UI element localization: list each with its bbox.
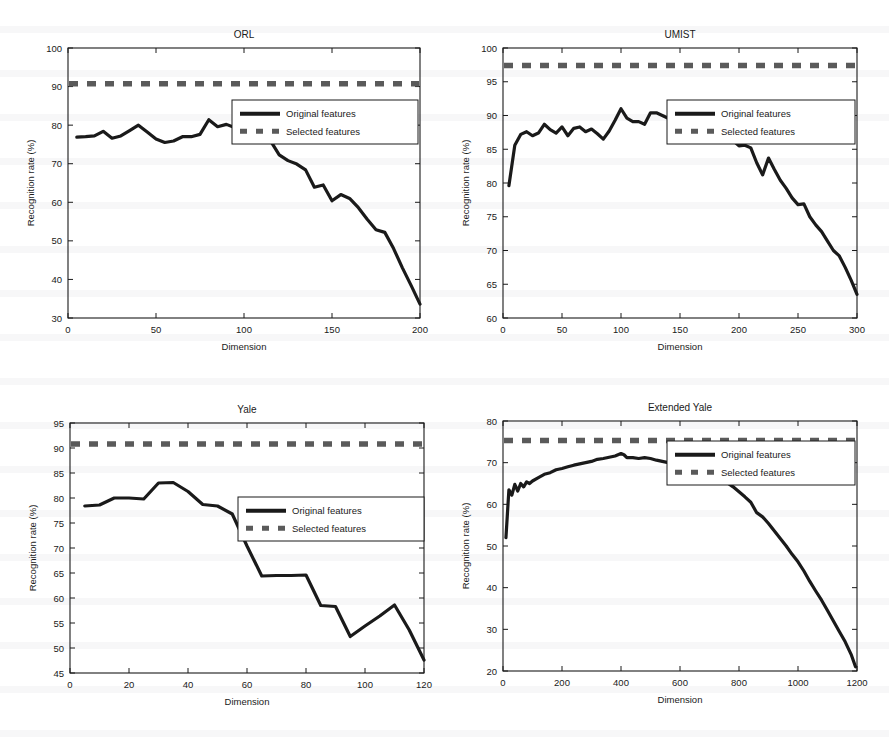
y-tick-label: 75 <box>53 518 64 529</box>
y-tick-label: 90 <box>51 81 62 92</box>
y-tick-label: 60 <box>486 499 497 510</box>
chart-panel-extended-yale: Extended Yale020040060080010001200203040… <box>445 375 889 749</box>
y-tick-label: 70 <box>486 245 497 256</box>
x-tick-label: 100 <box>613 324 629 335</box>
legend-yale: Original featuresSelected features <box>238 497 424 541</box>
chart-title-extyale: Extended Yale <box>648 402 713 413</box>
y-tick-label: 60 <box>51 197 62 208</box>
y-tick-label: 65 <box>486 279 497 290</box>
x-tick-label: 0 <box>500 677 505 688</box>
y-tick-label: 80 <box>486 416 497 427</box>
y-tick-label: 75 <box>486 211 497 222</box>
y-tick-label: 65 <box>53 568 64 579</box>
legend-label-original: Original features <box>721 449 791 460</box>
x-axis-label-yale: Dimension <box>225 696 270 707</box>
x-tick-label: 80 <box>301 679 312 690</box>
x-tick-label: 1000 <box>787 677 808 688</box>
x-tick-label: 400 <box>613 677 629 688</box>
x-tick-label: 600 <box>672 677 688 688</box>
chart-panel-yale: Yale020406080100120455055606570758085909… <box>0 375 445 749</box>
y-tick-label: 90 <box>486 110 497 121</box>
x-tick-label: 20 <box>124 679 135 690</box>
chart-panel-orl: ORL05010015020030405060708090100Dimensio… <box>0 0 445 375</box>
plot-box-umist <box>503 48 857 318</box>
legend-box <box>667 441 855 485</box>
y-tick-label: 80 <box>51 120 62 131</box>
x-tick-label: 0 <box>67 679 72 690</box>
y-axis-label-umist: Recognition rate (%) <box>460 140 471 227</box>
legend-label-selected: Selected features <box>721 126 795 137</box>
x-tick-label: 60 <box>242 679 253 690</box>
y-tick-label: 95 <box>53 418 64 429</box>
x-tick-label: 100 <box>236 324 252 335</box>
legend-label-original: Original features <box>721 108 791 119</box>
legend-umist: Original featuresSelected features <box>667 100 855 144</box>
plot-box-orl <box>68 48 420 318</box>
x-tick-label: 50 <box>557 324 568 335</box>
chart-title-yale: Yale <box>237 404 257 415</box>
x-tick-label: 40 <box>183 679 194 690</box>
x-axis-label-umist: Dimension <box>658 341 703 352</box>
x-axis-label-extyale: Dimension <box>658 694 703 705</box>
legend-box <box>667 100 855 144</box>
x-tick-label: 1200 <box>846 677 867 688</box>
x-tick-label: 100 <box>357 679 373 690</box>
legend-extyale: Original featuresSelected features <box>667 441 855 485</box>
x-tick-label: 250 <box>790 324 806 335</box>
chart-title-orl: ORL <box>234 29 255 40</box>
chart-title-umist: UMIST <box>664 29 695 40</box>
x-tick-label: 800 <box>731 677 747 688</box>
y-tick-label: 55 <box>53 618 64 629</box>
y-tick-label: 70 <box>486 457 497 468</box>
x-tick-label: 0 <box>500 324 505 335</box>
x-tick-label: 50 <box>151 324 162 335</box>
legend-box <box>238 497 424 541</box>
y-tick-label: 100 <box>46 43 62 54</box>
y-tick-label: 20 <box>486 666 497 677</box>
y-tick-label: 60 <box>53 593 64 604</box>
legend-orl: Original featuresSelected features <box>232 100 418 144</box>
series-original-features-orl <box>77 120 420 304</box>
legend-label-selected: Selected features <box>721 467 795 478</box>
y-tick-label: 80 <box>486 178 497 189</box>
y-tick-label: 70 <box>51 158 62 169</box>
y-tick-label: 100 <box>481 43 497 54</box>
y-tick-label: 60 <box>486 313 497 324</box>
y-tick-label: 50 <box>486 541 497 552</box>
x-tick-label: 200 <box>554 677 570 688</box>
y-tick-label: 80 <box>53 493 64 504</box>
legend-label-selected: Selected features <box>286 126 360 137</box>
y-tick-label: 40 <box>51 274 62 285</box>
legend-label-original: Original features <box>292 505 362 516</box>
x-tick-label: 150 <box>324 324 340 335</box>
x-axis-label-orl: Dimension <box>222 341 267 352</box>
legend-label-selected: Selected features <box>292 523 366 534</box>
x-tick-label: 200 <box>412 324 428 335</box>
y-tick-label: 70 <box>53 543 64 554</box>
y-axis-label-orl: Recognition rate (%) <box>25 140 36 227</box>
y-axis-label-yale: Recognition rate (%) <box>27 505 38 592</box>
x-tick-label: 150 <box>672 324 688 335</box>
y-tick-label: 30 <box>486 624 497 635</box>
x-tick-label: 0 <box>65 324 70 335</box>
y-tick-label: 90 <box>53 443 64 454</box>
legend-box <box>232 100 418 144</box>
y-tick-label: 30 <box>51 313 62 324</box>
x-tick-label: 300 <box>849 324 865 335</box>
y-tick-label: 45 <box>53 668 64 679</box>
figure-grid: ORL05010015020030405060708090100Dimensio… <box>0 0 889 749</box>
y-tick-label: 95 <box>486 76 497 87</box>
legend-label-original: Original features <box>286 108 356 119</box>
y-axis-label-extyale: Recognition rate (%) <box>460 503 471 590</box>
x-tick-label: 200 <box>731 324 747 335</box>
y-tick-label: 50 <box>51 235 62 246</box>
y-tick-label: 40 <box>486 582 497 593</box>
y-tick-label: 50 <box>53 643 64 654</box>
y-tick-label: 85 <box>53 468 64 479</box>
chart-panel-umist: UMIST05010015020025030060657075808590951… <box>445 0 889 375</box>
y-tick-label: 85 <box>486 144 497 155</box>
x-tick-label: 120 <box>416 679 432 690</box>
